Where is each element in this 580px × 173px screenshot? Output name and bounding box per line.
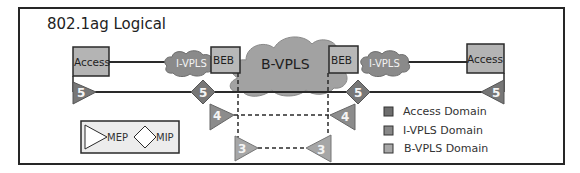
legend-swatch-ivpls [384, 126, 393, 135]
bvpls-label: B-VPLS [261, 56, 310, 72]
mip-level-5-left-label: 5 [199, 86, 207, 100]
beb-node-left: BEB [211, 47, 240, 73]
legend-label-ivpls: I-VPLS Domain [403, 124, 483, 137]
access-node-right: Access [467, 44, 504, 73]
mep-level-3-right-label: 3 [317, 143, 325, 157]
mep-key-label: MEP [107, 132, 128, 143]
diagram-title: 802.1ag Logical [47, 15, 166, 33]
ivpls-label-right: I-VPLS [369, 58, 400, 69]
legend-label-bvpls: B-VPLS Domain [404, 142, 488, 155]
beb-label-left: BEB [213, 54, 234, 66]
access-node-left: Access [73, 47, 110, 76]
mep-level-3-left-label: 3 [238, 142, 246, 156]
mep-level-4-left-label: 4 [213, 109, 221, 123]
mep-level-5-right-label: 5 [492, 86, 500, 100]
legend-swatch-bvpls [384, 144, 393, 153]
beb-node-right: BEB [329, 46, 358, 73]
ivpls-label-left: I-VPLS [176, 58, 207, 69]
mep-level-5-left-label: 5 [77, 86, 85, 100]
beb-label-right: BEB [331, 54, 352, 66]
mip-level-5-right-label: 5 [354, 86, 362, 100]
access-label-left: Access [74, 56, 110, 68]
legend-swatch-access [384, 107, 393, 116]
access-label-right: Access [467, 53, 503, 65]
symbol-key: MEP MIP [81, 121, 179, 153]
legend-label-access: Access Domain [403, 105, 487, 118]
mip-key-label: MIP [156, 132, 174, 143]
mep-level-4-right-label: 4 [341, 110, 349, 124]
diagram-canvas: 802.1ag Logical B-VPLS I-VPLS I-VPLS Acc… [0, 0, 580, 173]
